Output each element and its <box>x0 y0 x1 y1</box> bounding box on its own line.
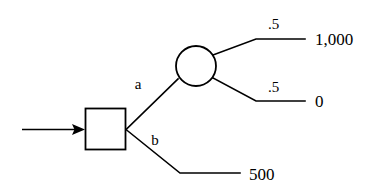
probability-lower-label: .5 <box>268 79 279 95</box>
payoff-lower-label: 0 <box>315 92 324 111</box>
chance-node-circle[interactable] <box>176 46 216 86</box>
decision-node-square[interactable] <box>86 109 126 150</box>
branch-b-label: b <box>151 132 159 148</box>
branch-a-label: a <box>135 76 142 92</box>
payoff-upper-label: 1,000 <box>315 30 353 49</box>
payoff-branch-b-label: 500 <box>249 165 275 184</box>
decision-tree-diagram: a b .5 .5 1,000 0 500 <box>0 0 383 196</box>
probability-upper-label: .5 <box>268 16 279 32</box>
